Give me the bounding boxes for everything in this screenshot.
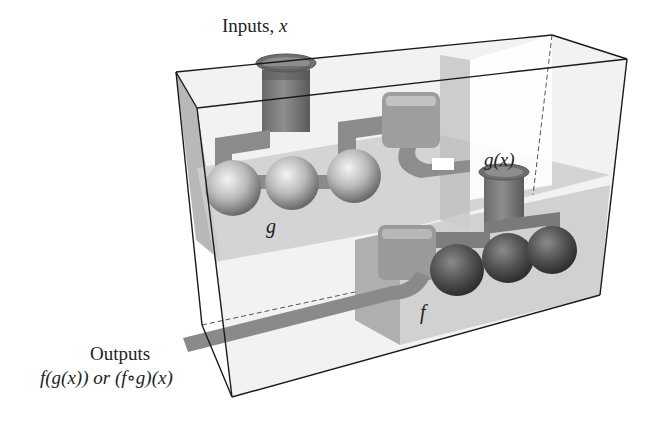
machine-g-label: g: [266, 216, 276, 236]
outputs-label: Outputs: [90, 344, 150, 363]
composition-diagram: Inputs, x g(x) g f Outputs f(g(x)) or (f…: [0, 0, 656, 423]
inputs-word: Inputs,: [222, 15, 274, 36]
inputs-variable: x: [279, 15, 287, 36]
outputs-formula: f(g(x)) or (f∘g)(x): [40, 368, 173, 387]
intermediate-label: g(x): [484, 150, 515, 169]
inputs-label: Inputs, x: [222, 16, 287, 35]
machine-f-label: f: [420, 302, 426, 322]
